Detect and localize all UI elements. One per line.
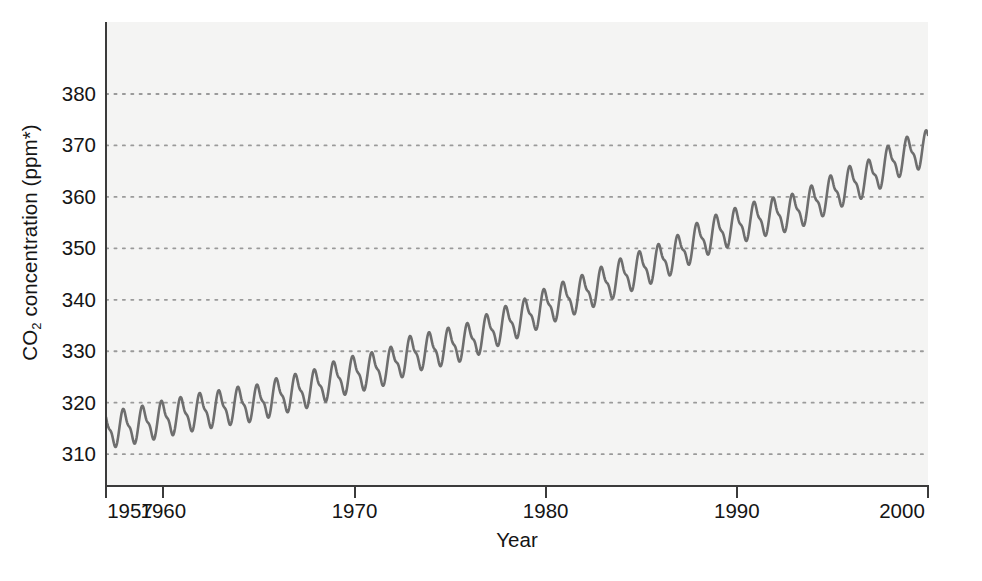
x-axis-tick-label: 1980 bbox=[523, 499, 569, 524]
y-axis-tick-label: 330 bbox=[8, 341, 96, 362]
gridlines bbox=[106, 94, 928, 454]
x-axis-tick-label: 1970 bbox=[332, 499, 378, 524]
y-axis-tick-label: 310 bbox=[8, 444, 96, 465]
co2-data-curve bbox=[106, 130, 928, 447]
x-axis-tick-mark bbox=[736, 487, 738, 498]
x-axis-tick-mark bbox=[105, 487, 107, 498]
x-axis-tick-mark bbox=[927, 487, 929, 498]
y-axis-tick-label: 320 bbox=[8, 392, 96, 413]
y-axis-tick-label: 380 bbox=[8, 84, 96, 105]
x-axis-tick-mark bbox=[354, 487, 356, 498]
plot-svg bbox=[106, 22, 928, 485]
x-axis-tick-mark bbox=[162, 487, 164, 498]
x-axis-tick-mark bbox=[545, 487, 547, 498]
x-axis-tick-label: 2000 bbox=[879, 499, 925, 524]
x-axis-tick-label: 1960 bbox=[141, 499, 187, 524]
plot-area bbox=[106, 22, 928, 485]
y-axis-tick-label: 370 bbox=[8, 135, 96, 156]
x-axis-title: Year bbox=[106, 528, 928, 552]
x-axis-line bbox=[105, 485, 929, 487]
y-axis-tick-label: 360 bbox=[8, 187, 96, 208]
y-axis-line bbox=[105, 22, 107, 486]
y-axis-tick-labels: 310320330340350360370380 bbox=[10, 0, 96, 581]
y-axis-tick-label: 340 bbox=[8, 290, 96, 311]
y-axis-tick-label: 350 bbox=[8, 238, 96, 259]
co2-concentration-chart: CO2 concentration (ppm*) 310320330340350… bbox=[0, 0, 982, 581]
x-axis-tick-label: 1990 bbox=[714, 499, 760, 524]
